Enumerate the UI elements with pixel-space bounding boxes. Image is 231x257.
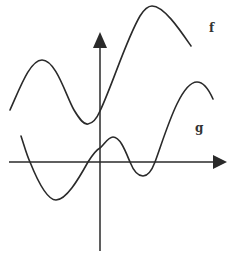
label-g: g xyxy=(195,121,204,135)
curve-g xyxy=(21,82,213,200)
label-f: f xyxy=(209,21,215,35)
graph-diagram: f g xyxy=(0,0,231,257)
y-axis-arrow-icon xyxy=(93,32,107,48)
x-axis-arrow-icon xyxy=(213,155,227,169)
